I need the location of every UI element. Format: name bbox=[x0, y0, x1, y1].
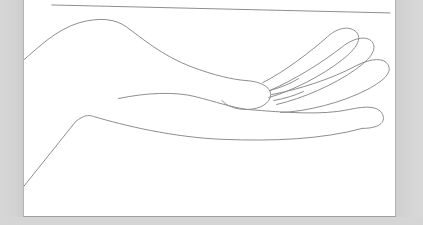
hand-back-contour bbox=[24, 19, 247, 80]
forearm-lower-contour bbox=[24, 116, 362, 187]
ring-finger bbox=[272, 60, 390, 113]
palm-crease bbox=[118, 93, 247, 109]
screenshot-viewport bbox=[0, 0, 423, 225]
page-surface bbox=[23, 0, 396, 217]
middle-finger bbox=[270, 38, 374, 104]
horizontal-rule bbox=[52, 5, 390, 13]
ink-group bbox=[24, 5, 390, 186]
hand-drawing-artboard bbox=[24, 0, 395, 216]
left-margin-shade bbox=[0, 0, 23, 225]
bottom-margin-shade bbox=[0, 217, 423, 225]
pinky-finger bbox=[248, 107, 384, 128]
right-margin-shade bbox=[396, 0, 423, 225]
thumb-knuckle-bulge bbox=[222, 81, 271, 110]
